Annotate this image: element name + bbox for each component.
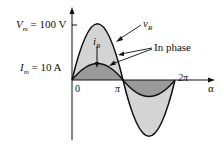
in-phase-label: In phase [154, 42, 191, 53]
ir-subscript: R [96, 42, 100, 50]
y-axis-arrow-icon [70, 7, 75, 14]
im-label: Im = 10 A [20, 62, 62, 76]
origin-label: 0 [75, 84, 80, 94]
pi-label: π [115, 84, 120, 94]
vm-value: = 100 V [28, 18, 67, 30]
in-phase-arrow-icon-1 [118, 52, 124, 57]
vm-label: Vm = 100 V [16, 19, 67, 33]
vr-label: vR [143, 18, 152, 32]
ir-label: iR [93, 36, 100, 50]
im-value: = 10 A [29, 61, 62, 73]
vr-subscript: R [148, 24, 152, 32]
in-phase-pointer-2 [112, 49, 152, 64]
vm-symbol: V [16, 18, 23, 30]
two-pi-label: 2π [178, 73, 188, 83]
alpha-label: α [208, 83, 214, 94]
